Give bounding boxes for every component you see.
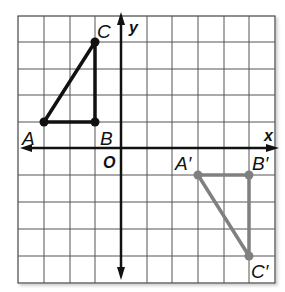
point-a [40,118,49,127]
origin-label: O [103,154,116,171]
coordinate-plane: x y O A B C A′ B′ C′ [0,0,285,292]
point-a-prime [194,171,203,180]
label-b: B [100,128,113,149]
label-a: A [21,128,35,149]
x-axis-label: x [263,127,274,144]
label-a-prime: A′ [174,153,193,174]
point-b [91,118,100,127]
label-c-prime: C′ [251,261,270,282]
y-axis-label: y [128,19,139,36]
label-b-prime: B′ [252,153,270,174]
label-c: C [97,21,111,42]
point-c-prime [245,252,254,261]
